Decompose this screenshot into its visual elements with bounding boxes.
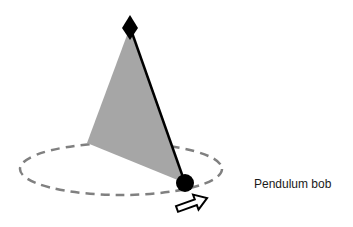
cone-shaded-region (87, 27, 185, 183)
pendulum-bob (176, 174, 194, 192)
direction-arrow-icon (174, 191, 210, 217)
pendulum-bob-label: Pendulum bob (254, 177, 331, 191)
conical-pendulum-diagram (0, 0, 353, 227)
pivot-diamond-icon (122, 15, 138, 40)
